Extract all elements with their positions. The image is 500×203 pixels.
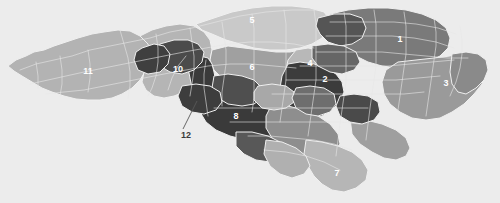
district-label-5: 5 xyxy=(249,15,254,25)
district-label-6: 6 xyxy=(249,62,254,72)
district-label-1: 1 xyxy=(397,34,402,44)
map-figure: 1 2 3 4 5 6 7 8 10 11 12 xyxy=(0,0,500,203)
district-label-8: 8 xyxy=(233,111,238,121)
district-label-2: 2 xyxy=(322,74,327,84)
district-label-10: 10 xyxy=(173,64,183,74)
district-map[interactable]: 1 2 3 4 5 6 7 8 10 11 12 xyxy=(0,0,500,203)
district-label-4: 4 xyxy=(307,58,312,68)
district-shape-piedmont-b[interactable] xyxy=(254,84,294,110)
callout-labels: 12 xyxy=(181,130,191,140)
callout-label-12: 12 xyxy=(181,130,191,140)
district-label-3: 3 xyxy=(443,78,448,88)
district-label-7: 7 xyxy=(334,168,339,178)
district-label-11: 11 xyxy=(83,66,93,76)
